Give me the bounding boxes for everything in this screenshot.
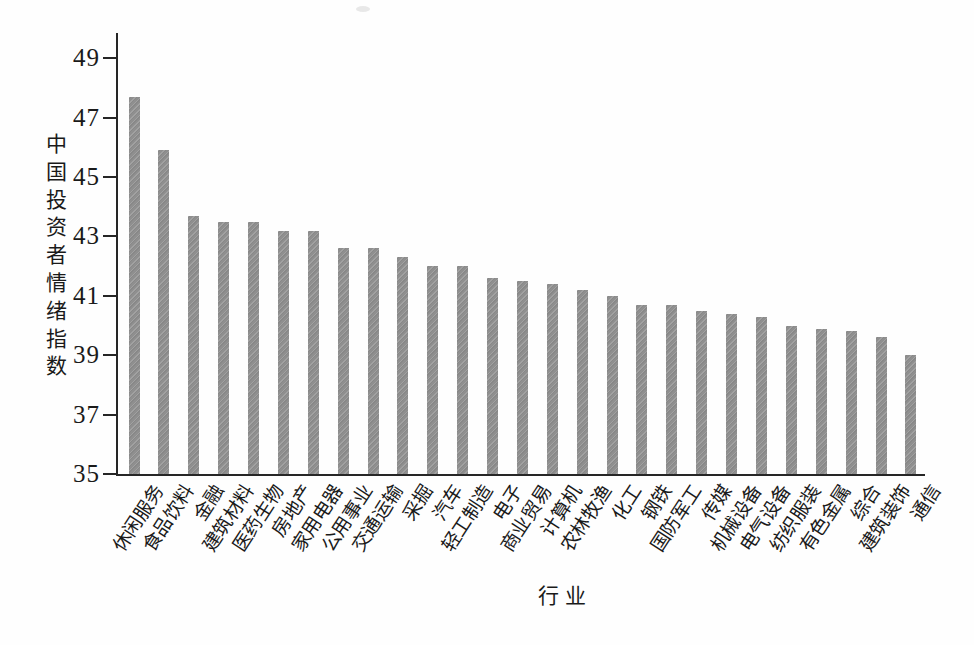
bar-电气设备 [756,317,767,474]
bar-计算机 [547,284,558,474]
investor-sentiment-bar-chart: 中国投资者情绪指数 3537394143454749 休闲服务食品饮料金融建筑材… [0,0,974,645]
bar-化工 [607,296,618,474]
bar-通信 [905,355,916,474]
scan-artifact [356,6,370,12]
plot-area [116,33,925,476]
bar-建筑材料 [218,222,229,474]
bar-传媒 [696,311,707,474]
y-tick-mark [103,295,117,297]
bar-房地产 [278,231,289,475]
bar-建筑装饰 [876,337,887,474]
y-tick-label: 43 [40,223,100,249]
bar-钢铁 [636,305,647,474]
y-tick-mark [103,235,117,237]
bar-家用电器 [308,231,319,475]
bar-电子 [487,278,498,474]
y-tick-mark [103,354,117,356]
bar-交通运输 [368,248,379,474]
y-tick-mark [103,176,117,178]
bar-休闲服务 [129,97,140,474]
y-tick-mark [103,117,117,119]
bar-轻工制造 [457,266,468,474]
x-axis-title: 行业 [538,585,592,607]
y-tick-label: 37 [40,402,100,428]
y-tick-label: 47 [40,105,100,131]
bar-有色金属 [816,329,827,475]
bar-国防军工 [666,305,677,474]
y-tick-mark [103,57,117,59]
bar-金融 [188,216,199,474]
bar-农林牧渔 [577,290,588,474]
y-tick-mark [103,414,117,416]
y-tick-label: 45 [40,164,100,190]
bar-纺织服装 [786,326,797,475]
x-category-label: 采掘 [399,481,436,524]
bar-综合 [846,331,857,474]
bar-机械设备 [726,314,737,474]
bar-商业贸易 [517,281,528,474]
bar-汽车 [427,266,438,474]
bar-采掘 [397,257,408,474]
bar-食品饮料 [158,150,169,474]
y-tick-label: 35 [40,461,100,487]
x-category-label: 化工 [608,481,645,524]
y-tick-label: 39 [40,342,100,368]
x-category-label: 通信 [907,481,944,524]
y-tick-label: 49 [40,45,100,71]
y-tick-label: 41 [40,283,100,309]
y-tick-mark [103,473,117,475]
bar-医药生物 [248,222,259,474]
bar-公用事业 [338,248,349,474]
